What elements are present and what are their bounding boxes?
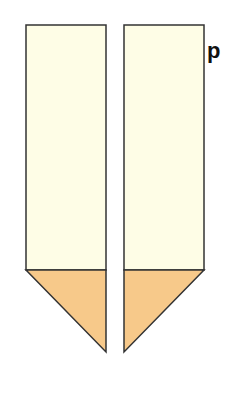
right-strip-body (124, 25, 204, 270)
left-strip-body (26, 25, 106, 270)
right-strip (124, 25, 204, 352)
label-p: p (207, 40, 220, 62)
left-strip (26, 25, 106, 352)
left-strip-tip (26, 270, 106, 352)
right-strip-tip (124, 270, 204, 352)
